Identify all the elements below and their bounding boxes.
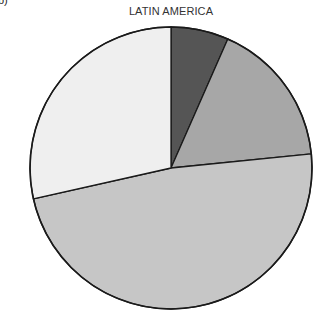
- pie-slice-4: [30, 27, 171, 199]
- pie-chart: [0, 0, 332, 328]
- pie-slices: [30, 27, 312, 309]
